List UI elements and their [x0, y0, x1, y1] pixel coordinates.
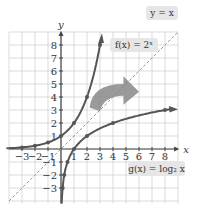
data-point — [72, 147, 76, 151]
data-point — [62, 173, 66, 177]
x-tick-label: 7 — [149, 151, 155, 162]
data-point — [20, 145, 24, 149]
y-tick-label: 4 — [51, 92, 57, 103]
x-tick-label: 8 — [162, 151, 168, 162]
reflection-arrow-icon — [90, 76, 139, 111]
data-point — [33, 144, 37, 148]
y-tick-label: 3 — [51, 105, 57, 116]
y-tick-label: 8 — [51, 40, 57, 51]
data-point — [85, 95, 89, 99]
data-point — [163, 108, 167, 112]
data-point — [66, 160, 70, 164]
x-tick-label: 5 — [123, 151, 129, 162]
exp-arrow-icon — [98, 33, 104, 43]
y-axis-label: y — [57, 19, 64, 30]
x-axis-label: x — [183, 144, 189, 155]
x-tick-label: 3 — [97, 151, 103, 162]
data-point — [72, 121, 76, 125]
log-arrow-icon — [169, 106, 178, 113]
data-point — [111, 121, 115, 125]
y-tick-label: −3 — [42, 183, 57, 194]
x-tick-label: 4 — [110, 151, 116, 162]
function-graph: xy −3−2−11234567887654321−1−2−3 y = xf(x… — [0, 0, 198, 211]
identity-label: y = x — [149, 8, 173, 18]
data-point — [61, 186, 65, 190]
data-point — [59, 134, 63, 138]
exp-label: f(x) = 2ˣ — [115, 40, 153, 50]
x-axis-arrow-icon — [174, 147, 179, 152]
log-label: g(x) = log₂ x — [128, 164, 185, 174]
y-tick-label: 2 — [51, 118, 57, 129]
x-tick-label: 2 — [84, 151, 90, 162]
y-axis-arrow-icon — [59, 31, 64, 36]
x-tick-label: 6 — [136, 151, 142, 162]
y-tick-label: 5 — [51, 79, 57, 90]
data-point — [46, 141, 50, 145]
y-tick-label: −2 — [42, 170, 57, 181]
y-tick-label: −1 — [42, 157, 57, 168]
data-point — [85, 134, 89, 138]
y-tick-label: 6 — [51, 66, 57, 77]
y-tick-label: 7 — [51, 53, 57, 64]
